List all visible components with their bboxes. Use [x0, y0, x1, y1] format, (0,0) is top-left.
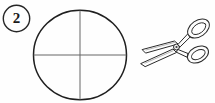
step-number-badge	[3, 5, 29, 31]
scissors-lower-shank	[177, 50, 188, 58]
worksheet-canvas: 2	[0, 0, 215, 103]
badge-ring	[3, 5, 29, 31]
worksheet-illustration	[0, 0, 215, 103]
scissors-screw	[175, 46, 177, 48]
circle-with-crosshair	[34, 10, 127, 100]
scissors-icon	[141, 15, 213, 66]
